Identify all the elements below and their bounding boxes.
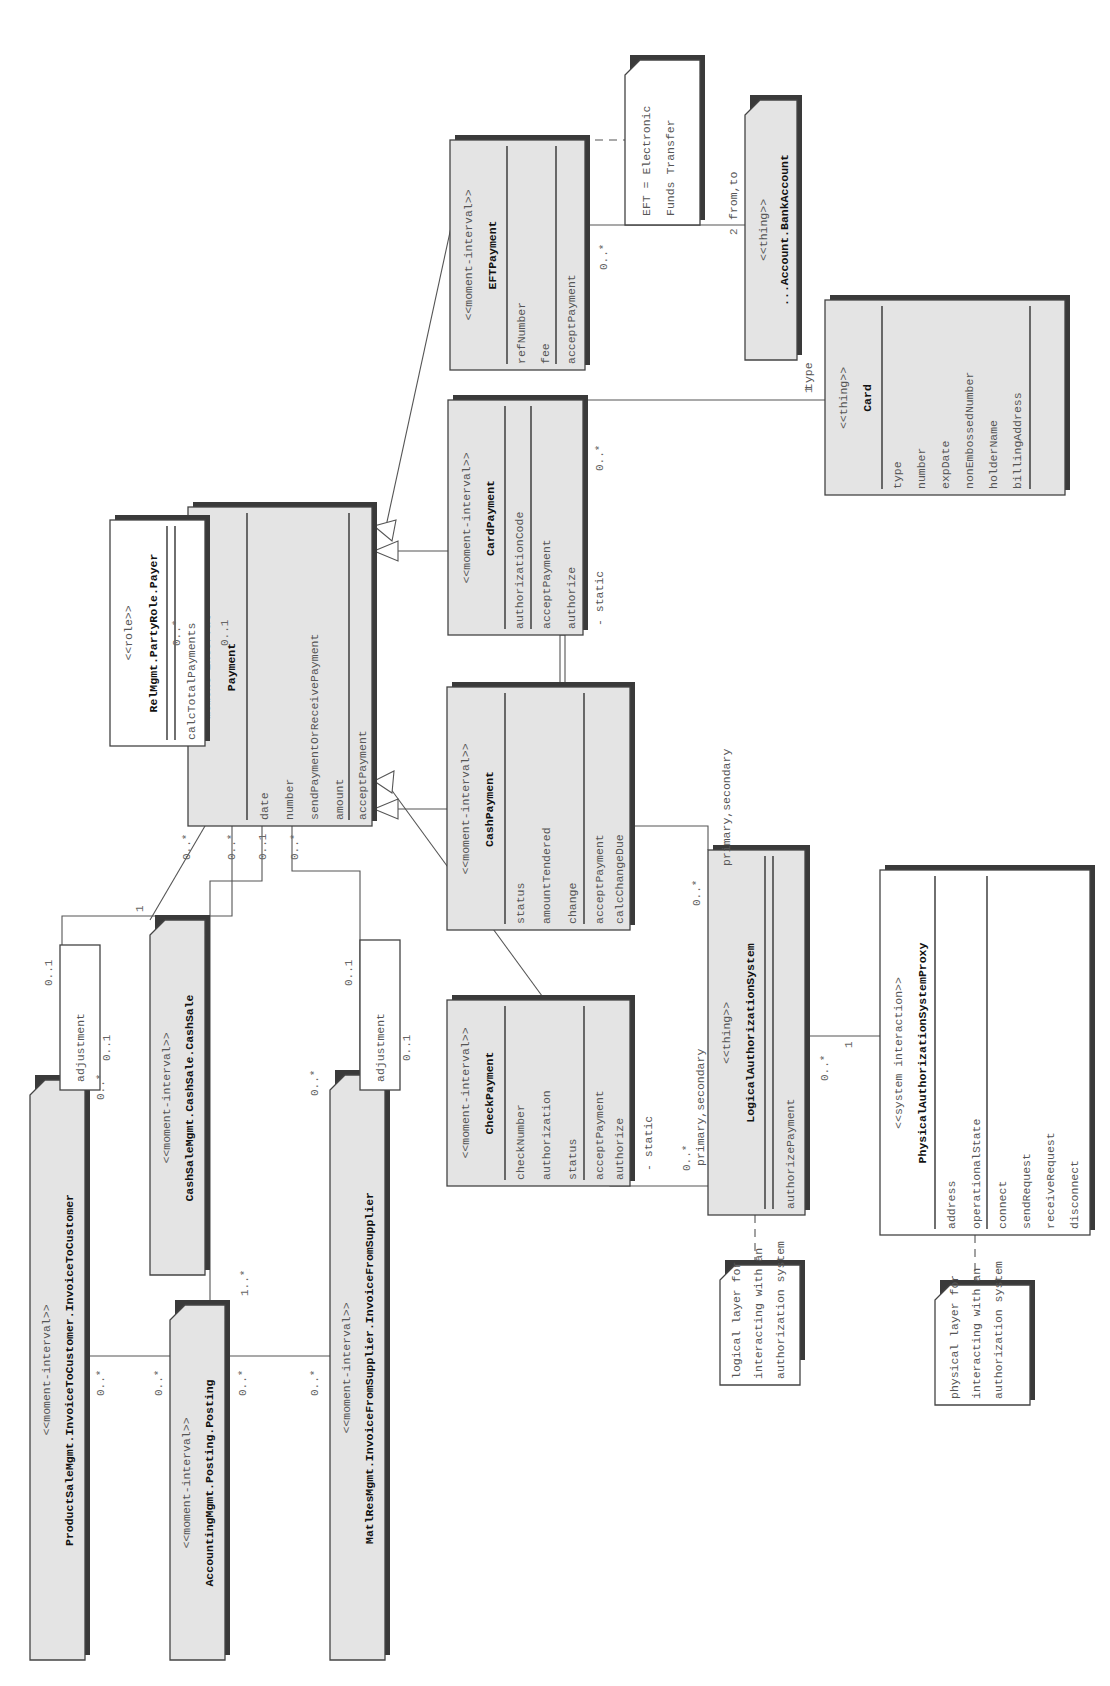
- method: authorize: [565, 567, 578, 629]
- class-cash-sale[interactable]: <<moment-interval>> CashSaleMgmt.CashSal…: [150, 915, 210, 1275]
- multiplicity: 0..*: [681, 1145, 693, 1171]
- note-text: EFT = Electronic: [640, 105, 653, 216]
- attribute: refNumber: [515, 302, 528, 364]
- multiplicity: 1..*: [239, 1270, 251, 1296]
- attribute: address: [945, 1181, 958, 1229]
- multiplicity: 0..*: [309, 1070, 321, 1096]
- stereotype: <<moment-interval>>: [459, 1027, 472, 1158]
- class-name: Payment: [225, 643, 238, 691]
- class-invoice-to-customer[interactable]: <<moment-interval>> ProductSaleMgmt.Invo…: [30, 1075, 90, 1660]
- stereotype: <<system interaction>>: [892, 977, 905, 1129]
- multiplicity: 0..*: [309, 1370, 321, 1396]
- role-label: from,to: [727, 172, 740, 220]
- qualifier-adjustment-customer: adjustment: [60, 945, 100, 1090]
- note-text: authorization system: [992, 1261, 1005, 1399]
- attribute: amountTendered: [540, 827, 553, 924]
- multiplicity: 0..*: [289, 834, 301, 860]
- class-name: Card: [861, 384, 874, 412]
- method: sendRequest: [1020, 1153, 1033, 1229]
- role-label: primary,secondary: [694, 1049, 707, 1166]
- attribute: billingAddress: [1011, 392, 1024, 489]
- method: acceptPayment: [565, 274, 578, 364]
- class-physical-authorization-system-proxy[interactable]: <<system interaction>> PhysicalAuthoriza…: [880, 865, 1095, 1235]
- method: acceptPayment: [540, 539, 553, 629]
- attribute: holderName: [987, 420, 1000, 489]
- multiplicity: 0..*: [594, 445, 606, 471]
- class-logical-authorization-system[interactable]: <<thing>> LogicalAuthorizationSystem aut…: [708, 845, 810, 1215]
- class-name: ...Account.BankAccount: [778, 154, 791, 306]
- multiplicity: 0..*: [95, 1370, 107, 1396]
- attribute: status: [514, 883, 527, 924]
- uml-class-diagram: <<moment-interval>> Payment date number …: [0, 0, 1110, 1686]
- note-logical-layer: logical layer for interacting with an au…: [720, 1241, 805, 1385]
- method: authorizePayment: [784, 1099, 797, 1209]
- multiplicity: 0..*: [95, 1074, 107, 1100]
- class-bank-account[interactable]: <<thing>> ...Account.BankAccount: [745, 95, 802, 360]
- note-text: interacting with an: [970, 1268, 983, 1399]
- stereotype: <<moment-interval>>: [462, 189, 475, 320]
- multiplicity: 0..1: [343, 959, 355, 986]
- method: receiveRequest: [1044, 1132, 1057, 1229]
- method: acceptPayment: [356, 730, 369, 820]
- class-name: PhysicalAuthorizationSystemProxy: [916, 942, 929, 1163]
- stereotype: <<thing>>: [837, 367, 850, 429]
- stereotype: <<moment-interval>>: [459, 743, 472, 874]
- class-cash-payment[interactable]: <<moment-interval>> CashPayment status a…: [447, 682, 635, 930]
- attribute: status: [566, 1139, 579, 1180]
- multiplicity: 0..1: [43, 959, 55, 986]
- attribute: authorizationCode: [513, 512, 526, 629]
- multiplicity: 0..*: [691, 880, 703, 906]
- method: connect: [996, 1181, 1009, 1229]
- attribute: nonEmbossedNumber: [963, 372, 976, 489]
- class-card[interactable]: <<thing>> Card type number expDate nonEm…: [825, 295, 1070, 495]
- attribute: amount: [333, 779, 346, 820]
- class-check-payment[interactable]: <<moment-interval>> CheckPayment checkNu…: [447, 995, 635, 1186]
- class-name: CashSaleMgmt.CashSale.CashSale: [183, 994, 196, 1201]
- stereotype: <<moment-interval>>: [340, 1302, 353, 1433]
- role-label: - static: [593, 571, 606, 626]
- attribute: checkNumber: [514, 1104, 527, 1180]
- multiplicity: 0..*: [598, 244, 610, 270]
- multiplicity: 0..*: [153, 1370, 165, 1396]
- class-name: ProductSaleMgmt.InvoiceToCustomer.Invoic…: [63, 1194, 76, 1546]
- stereotype: <<moment-interval>>: [180, 1417, 193, 1548]
- role-label: - static: [642, 1116, 655, 1171]
- attribute: sendPaymentOrReceivePayment: [308, 634, 321, 820]
- method: calcChangeDue: [613, 834, 626, 924]
- stereotype: <<thing>>: [757, 199, 770, 261]
- multiplicity: 0..1: [101, 1034, 113, 1061]
- class-eft-payment[interactable]: <<moment-interval>> EFTPayment refNumber…: [450, 135, 590, 370]
- class-name: EFTPayment: [486, 220, 499, 289]
- qualifier-text: adjustment: [374, 1013, 387, 1082]
- class-name: CardPayment: [484, 480, 497, 556]
- class-payer[interactable]: <<role>> RelMgmt.PartyRole.Payer calcTot…: [110, 515, 210, 746]
- attribute: operationalState: [970, 1118, 983, 1229]
- note-eft: EFT = Electronic Funds Transfer: [625, 55, 705, 225]
- method: calcTotalPayments: [185, 623, 198, 740]
- generalization-arrows: [374, 520, 398, 819]
- multiplicity: 0..*: [171, 620, 183, 646]
- qualifier-adjustment-supplier: adjustment: [360, 940, 400, 1090]
- stereotype: <<role>>: [122, 605, 135, 660]
- stereotype: <<moment-interval>>: [40, 1304, 53, 1435]
- class-invoice-from-supplier[interactable]: <<moment-interval>> MatlResMgmt.InvoiceF…: [330, 1070, 390, 1660]
- class-posting[interactable]: <<moment-interval>> AccountingMgmt.Posti…: [170, 1300, 230, 1660]
- attribute: number: [283, 779, 296, 820]
- note-text: interacting with an: [752, 1248, 765, 1379]
- role-label: primary,secondary: [720, 749, 733, 866]
- method: disconnect: [1068, 1160, 1081, 1229]
- attribute: date: [258, 792, 271, 820]
- note-text: logical layer for: [730, 1262, 743, 1379]
- role-label: type: [802, 362, 815, 390]
- multiplicity: 0..1: [401, 1034, 413, 1061]
- attribute: change: [566, 882, 579, 924]
- note-text: Funds Transfer: [664, 119, 677, 216]
- class-name: AccountingMgmt.Posting.Posting: [203, 1379, 216, 1586]
- note-text: authorization system: [774, 1241, 787, 1379]
- attribute: authorization: [540, 1090, 553, 1180]
- method: acceptPayment: [593, 834, 606, 924]
- class-name: CheckPayment: [483, 1052, 496, 1135]
- class-payment[interactable]: <<moment-interval>> Payment date number …: [188, 502, 377, 826]
- stereotype: <<thing>>: [720, 1002, 733, 1064]
- class-card-payment[interactable]: <<moment-interval>> CardPayment authoriz…: [448, 395, 588, 635]
